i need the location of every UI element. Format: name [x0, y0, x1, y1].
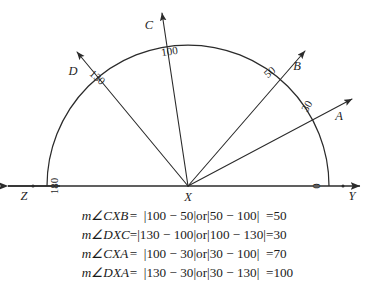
equation-row: m∠DXA = |130 − 30| or |30 − 130| = 100: [82, 263, 293, 282]
equation-row: m∠CXA = |100 − 30| or |30 − 100| = 70: [82, 244, 293, 263]
equation-expr-first: |100 − 50|: [137, 206, 196, 225]
equation-equals-2: =: [266, 244, 273, 263]
equation-expr-first: |130 − 30|: [137, 263, 196, 282]
equation-row: m∠CXB = |100 − 50| or |50 − 100| = 50: [82, 206, 293, 225]
equation-block: m∠CXB = |100 − 50| or |50 − 100| = 50 m∠…: [0, 206, 375, 298]
point-label-d: D: [67, 64, 77, 78]
point-label-b: B: [293, 59, 301, 73]
equation-or: or: [196, 206, 207, 225]
point-label-y: Y: [349, 189, 358, 203]
vertex-label-x: X: [183, 190, 193, 204]
equation-table: m∠CXB = |100 − 50| or |50 − 100| = 50 m∠…: [82, 206, 293, 282]
equation-result: 70: [273, 244, 293, 263]
equation-equals-2: =: [266, 225, 273, 244]
scale-reading-50: 50: [261, 63, 278, 80]
equation-or: or: [196, 263, 207, 282]
equation-lhs: m∠DXA: [82, 263, 130, 282]
equation-or: or: [196, 225, 207, 244]
ray-xb: [188, 51, 305, 186]
equation-equals: =: [130, 225, 137, 244]
equation-equals-2: =: [266, 263, 273, 282]
equation-result: 30: [273, 225, 293, 244]
equation-expr-second: |50 − 100|: [207, 206, 266, 225]
equation-expr-second: |30 − 130|: [207, 263, 266, 282]
ray-xa: [188, 99, 352, 186]
equation-result: 100: [273, 263, 293, 282]
tick-dot-left: [32, 185, 35, 188]
equation-lhs: m∠CXA: [82, 244, 130, 263]
equation-row: m∠DXC = |130 − 100| or |100 − 130| = 30: [82, 225, 293, 244]
equation-or: or: [196, 244, 207, 263]
point-label-a: A: [334, 109, 343, 123]
scale-reading-30: 30: [299, 98, 315, 114]
point-label-c: C: [145, 18, 154, 32]
equation-expr-first: |130 − 100|: [137, 225, 196, 244]
protractor-angle-figure: X Z Y A B C D 0 180 30 50 100 130 m∠CXB …: [0, 0, 375, 298]
equation-equals-2: =: [266, 206, 273, 225]
scale-reading-100: 100: [160, 44, 179, 58]
diagram-area: X Z Y A B C D 0 180 30 50 100 130: [0, 0, 375, 205]
equation-expr-second: |100 − 130|: [207, 225, 266, 244]
point-label-z: Z: [21, 189, 29, 203]
equation-lhs: m∠DXC: [82, 225, 130, 244]
equation-equals: =: [130, 244, 137, 263]
scale-reading-180: 180: [48, 177, 60, 194]
tick-dot-right: [342, 185, 345, 188]
equation-equals: =: [130, 263, 137, 282]
equation-expr-first: |100 − 30|: [137, 244, 196, 263]
equation-equals: =: [130, 206, 137, 225]
diagram-svg: X Z Y A B C D 0 180 30 50 100 130: [0, 0, 375, 205]
equation-result: 50: [273, 206, 293, 225]
scale-reading-0: 0: [310, 183, 322, 189]
equation-lhs: m∠CXB: [82, 206, 130, 225]
equation-expr-second: |30 − 100|: [207, 244, 266, 263]
